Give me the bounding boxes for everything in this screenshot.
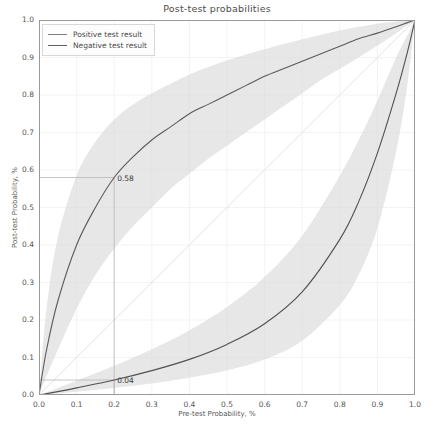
y-tick-label: 0.9 xyxy=(2,54,34,62)
x-tick-label: 0.6 xyxy=(250,401,280,409)
legend-swatch-positive-icon xyxy=(48,34,67,35)
chart-figure: Post-test probabilities 0.00.10.20.30.40… xyxy=(0,0,434,428)
x-tick-label: 0.2 xyxy=(99,401,129,409)
plot-area xyxy=(39,20,415,395)
x-tick-label: 0.4 xyxy=(174,401,204,409)
legend-swatch-negative-icon xyxy=(48,45,67,46)
x-tick-label: 1.0 xyxy=(400,401,430,409)
x-tick-label: 0.7 xyxy=(287,401,317,409)
chart-legend: Positive test result Negative test resul… xyxy=(42,24,155,56)
x-tick-label: 0.0 xyxy=(24,401,54,409)
y-tick-label: 0.0 xyxy=(2,391,34,399)
x-axis-label: Pre-test Probability, % xyxy=(0,410,434,418)
annotation-value: 0.58 xyxy=(117,174,134,183)
y-tick-label: 0.8 xyxy=(2,91,34,99)
y-axis-label: Post-test Probability, % xyxy=(11,167,19,248)
y-tick-label: 0.1 xyxy=(2,354,34,362)
x-tick-label: 0.8 xyxy=(325,401,355,409)
plot-svg xyxy=(39,20,415,395)
x-tick-label: 0.9 xyxy=(362,401,392,409)
y-tick-label: 0.7 xyxy=(2,129,34,137)
legend-item-positive: Positive test result xyxy=(48,29,147,40)
y-tick-label: 0.2 xyxy=(2,316,34,324)
legend-label-positive: Positive test result xyxy=(73,30,142,39)
y-tick-label: 1.0 xyxy=(2,16,34,24)
x-tick-label: 0.5 xyxy=(212,401,242,409)
x-tick-label: 0.3 xyxy=(137,401,167,409)
annotation-value: 0.04 xyxy=(117,376,134,385)
chart-title: Post-test probabilities xyxy=(0,3,434,14)
legend-item-negative: Negative test result xyxy=(48,40,147,51)
x-tick-label: 0.1 xyxy=(62,401,92,409)
legend-label-negative: Negative test result xyxy=(73,41,147,50)
y-tick-label: 0.3 xyxy=(2,279,34,287)
